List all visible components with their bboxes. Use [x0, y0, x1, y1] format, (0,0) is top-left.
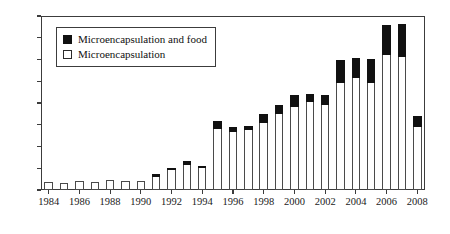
y-axis: 400350300250200150100500: [0, 0, 41, 234]
bar-segment-microencapsulation: [60, 183, 68, 190]
x-axis-tick-mark: [232, 190, 233, 194]
y-axis-tick-mark: [37, 146, 41, 147]
bar-segment-microencapsulation-and-food: [352, 58, 360, 78]
bar-segment-microencapsulation-and-food: [367, 59, 375, 83]
x-axis-tick-mark: [325, 190, 326, 194]
bar-segment-microencapsulation: [198, 168, 206, 190]
bar-segment-microencapsulation-and-food: [382, 25, 390, 55]
bar-1995: [213, 121, 221, 190]
x-axis-tick-label: 1994: [192, 196, 213, 207]
bar-segment-microencapsulation: [290, 107, 298, 190]
x-axis-tick-mark: [140, 190, 141, 194]
filled-square-icon: [63, 35, 72, 44]
x-axis-tick-label: 2000: [284, 196, 305, 207]
bar-segment-microencapsulation: [167, 170, 175, 190]
bar-segment-microencapsulation: [259, 123, 267, 190]
bar-segment-microencapsulation: [398, 57, 406, 190]
bar-segment-microencapsulation-and-food: [259, 114, 267, 123]
bar-1991: [152, 174, 160, 190]
bar-1997: [244, 126, 252, 190]
x-axis-tick-mark: [202, 190, 203, 194]
bar-1988: [106, 180, 114, 190]
bar-segment-microencapsulation: [413, 127, 421, 191]
x-axis-tick-mark: [417, 190, 418, 194]
bar-segment-microencapsulation-and-food: [306, 94, 314, 101]
x-axis-tick-label: 1988: [100, 196, 121, 207]
bar-2005: [367, 59, 375, 190]
y-axis-tick-mark: [37, 59, 41, 60]
bar-2004: [352, 58, 360, 190]
x-axis-tick-mark: [79, 190, 80, 194]
bar-2001: [306, 94, 314, 190]
bar-2006: [382, 25, 390, 190]
bar-1984: [44, 182, 52, 190]
bar-segment-microencapsulation: [229, 132, 237, 190]
bar-segment-microencapsulation: [106, 180, 114, 190]
x-axis-tick-label: 2004: [345, 196, 366, 207]
bar-segment-microencapsulation: [213, 129, 221, 190]
bar-1993: [183, 161, 191, 190]
x-axis-tick-mark: [263, 190, 264, 194]
x-axis-tick-mark: [48, 190, 49, 194]
y-axis-tick-mark: [37, 168, 41, 169]
bar-segment-microencapsulation-and-food: [275, 105, 283, 114]
bar-segment-microencapsulation: [244, 130, 252, 190]
chart-legend: Microencapsulation and food Microencapsu…: [56, 27, 216, 67]
y-axis-tick-mark: [37, 102, 41, 103]
bar-1996: [229, 127, 237, 191]
bar-chart-figure: 400350300250200150100500 Microencapsulat…: [0, 0, 450, 234]
bar-segment-microencapsulation-and-food: [321, 95, 329, 105]
bar-segment-microencapsulation-and-food: [290, 95, 298, 107]
bar-1990: [137, 181, 145, 190]
bar-segment-microencapsulation: [336, 83, 344, 190]
bar-segment-microencapsulation: [183, 165, 191, 190]
bar-segment-microencapsulation: [306, 102, 314, 190]
bar-segment-microencapsulation: [352, 78, 360, 190]
bar-1994: [198, 166, 206, 190]
bar-segment-microencapsulation: [152, 177, 160, 190]
bar-segment-microencapsulation: [91, 182, 99, 190]
legend-label: Microencapsulation and food: [78, 33, 207, 46]
bar-segment-microencapsulation-and-food: [398, 24, 406, 57]
x-axis-tick-label: 2008: [407, 196, 428, 207]
bar-segment-microencapsulation: [44, 182, 52, 190]
x-axis-tick-mark: [294, 190, 295, 194]
x-axis-tick-label: 2002: [315, 196, 336, 207]
bar-1992: [167, 168, 175, 190]
x-axis-tick-mark: [355, 190, 356, 194]
x-axis-tick-label: 2006: [376, 196, 397, 207]
bar-segment-microencapsulation-and-food: [336, 60, 344, 84]
x-axis-tick-mark: [110, 190, 111, 194]
bar-1999: [275, 105, 283, 190]
bar-segment-microencapsulation: [75, 181, 83, 190]
x-axis-tick-mark: [171, 190, 172, 194]
bar-1987: [91, 182, 99, 190]
bar-2008: [413, 116, 421, 190]
legend-item-microencapsulation: Microencapsulation: [63, 47, 207, 62]
y-axis-tick-mark: [37, 124, 41, 125]
bar-1986: [75, 181, 83, 190]
x-axis-tick-label: 1990: [130, 196, 151, 207]
bar-1985: [60, 183, 68, 190]
open-square-icon: [63, 50, 72, 59]
bar-segment-microencapsulation: [121, 181, 129, 190]
bar-segment-microencapsulation-and-food: [213, 121, 221, 129]
bar-2007: [398, 24, 406, 190]
bar-1998: [259, 114, 267, 190]
bar-2003: [336, 60, 344, 191]
legend-label: Microencapsulation: [78, 48, 165, 61]
x-axis-tick-label: 1992: [161, 196, 182, 207]
legend-item-microencapsulation-and-food: Microencapsulation and food: [63, 32, 207, 47]
bar-segment-microencapsulation: [137, 181, 145, 190]
x-axis-tick-label: 1996: [223, 196, 244, 207]
y-axis-tick-mark: [37, 81, 41, 82]
x-axis-tick-mark: [386, 190, 387, 194]
bar-segment-microencapsulation: [367, 83, 375, 190]
y-axis-tick-mark: [37, 37, 41, 38]
bar-segment-microencapsulation: [382, 55, 390, 190]
x-axis-tick-label: 1986: [69, 196, 90, 207]
bar-segment-microencapsulation: [275, 114, 283, 190]
x-axis-tick-label: 1984: [38, 196, 59, 207]
bar-2002: [321, 95, 329, 190]
y-axis-tick-mark: [37, 189, 41, 190]
